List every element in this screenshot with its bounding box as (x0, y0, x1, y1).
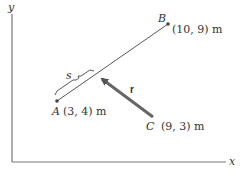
point-c-coords: (9, 3) m (161, 120, 205, 133)
point-a-coords: (3, 4) m (63, 105, 107, 118)
point-a-name: A (51, 105, 60, 118)
brace-s (55, 70, 94, 95)
point-b (166, 22, 170, 26)
vector-r (102, 79, 153, 117)
point-b-coords: (10, 9) m (172, 23, 223, 36)
diagram-canvas: y x s r A (3, 4) m B (10, 9) m C (9, 3) … (0, 0, 240, 175)
y-axis-label: y (7, 1, 15, 14)
line-ab (57, 24, 168, 101)
segment-label-s: s (66, 69, 72, 82)
point-a (55, 99, 59, 103)
x-axis-label: x (229, 155, 236, 168)
point-b-name: B (157, 12, 166, 25)
point-c-name: C (146, 120, 155, 133)
vector-label-r: r (130, 84, 134, 95)
